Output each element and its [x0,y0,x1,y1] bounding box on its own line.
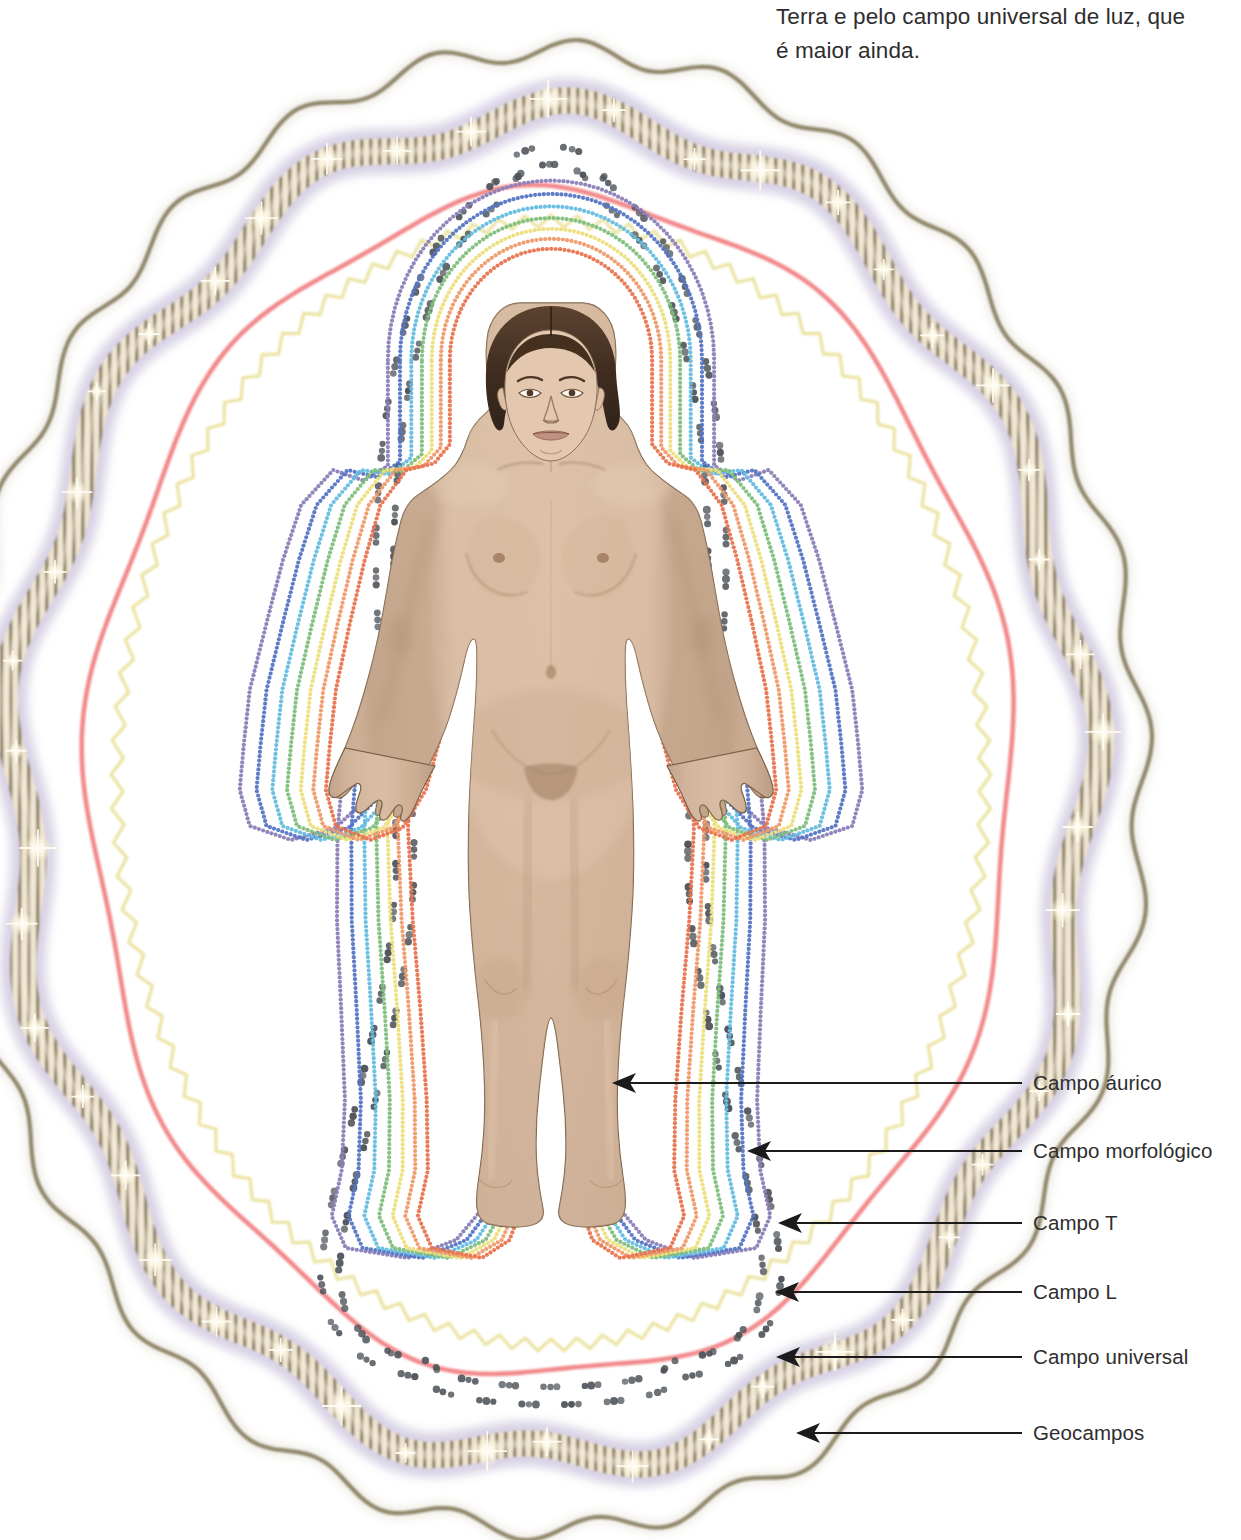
label-list: Campo áuricoCampo morfológicoCampo TCamp… [0,0,1241,1540]
label-campo-universal: Campo universal [1033,1347,1188,1368]
label-campo-aurico: Campo áurico [1033,1073,1162,1094]
label-campo-t: Campo T [1033,1213,1118,1234]
diagram-stage: Terra e pelo campo universal de luz, que… [0,0,1241,1540]
label-campo-l: Campo L [1033,1282,1117,1303]
label-geocampos: Geocampos [1033,1423,1144,1444]
label-campo-morfologico: Campo morfológico [1033,1141,1212,1162]
